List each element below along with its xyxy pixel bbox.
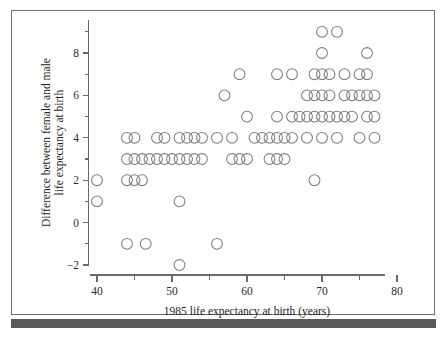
data-point [309, 175, 320, 186]
data-point [159, 132, 170, 143]
scatter-plot: −2024684050607080 1985 life expectancy a… [0, 0, 448, 339]
data-point [362, 69, 373, 80]
data-point [129, 132, 140, 143]
y-axis-title-line-2: life expectancy at birth [53, 89, 66, 195]
axis-titles-group: 1985 life expectancy at birth (years) Di… [40, 58, 330, 318]
axes-group [89, 20, 386, 275]
data-point [369, 90, 380, 101]
x-axis-title: 1985 life expectancy at birth (years) [164, 305, 331, 318]
data-point [339, 69, 350, 80]
data-point [174, 260, 185, 271]
data-point [92, 175, 103, 186]
data-points-group [92, 26, 380, 270]
data-point [122, 238, 133, 249]
data-point [369, 111, 380, 122]
y-tick-label: 6 [73, 89, 79, 101]
y-tick-label: 2 [73, 174, 79, 186]
data-point [362, 48, 373, 59]
data-point [302, 132, 313, 143]
y-axis-title-line-1: Difference between female and male [40, 58, 52, 227]
data-point [92, 196, 103, 207]
x-tick-label: 60 [241, 285, 253, 297]
data-point [317, 132, 328, 143]
x-tick-label: 50 [166, 285, 178, 297]
y-tick-label: 4 [73, 132, 79, 144]
data-point [332, 132, 343, 143]
chart-svg: −2024684050607080 1985 life expectancy a… [0, 0, 448, 339]
data-point [317, 48, 328, 59]
data-point [197, 132, 208, 143]
data-point [234, 69, 245, 80]
data-point [242, 111, 253, 122]
x-tick-label: 80 [391, 285, 403, 297]
data-point [332, 26, 343, 37]
data-point [354, 132, 365, 143]
x-tick-label: 40 [91, 285, 103, 297]
data-point [174, 196, 185, 207]
data-point [197, 154, 208, 165]
data-point [287, 69, 298, 80]
y-tick-label: −2 [67, 259, 79, 271]
data-point [287, 132, 298, 143]
data-point [369, 132, 380, 143]
data-point [242, 154, 253, 165]
data-point [137, 175, 148, 186]
data-point [212, 238, 223, 249]
data-point [279, 154, 290, 165]
data-point [227, 132, 238, 143]
data-point [324, 69, 335, 80]
data-point [219, 90, 230, 101]
tick-labels-group: −2024684050607080 [67, 47, 403, 297]
y-tick-label: 0 [73, 217, 79, 229]
data-point [212, 132, 223, 143]
data-point [347, 111, 358, 122]
data-point [317, 26, 328, 37]
x-tick-label: 70 [316, 285, 328, 297]
data-point [324, 90, 335, 101]
figure-container: −2024684050607080 1985 life expectancy a… [0, 0, 448, 339]
y-tick-label: 8 [73, 47, 79, 59]
data-point [272, 69, 283, 80]
data-point [272, 111, 283, 122]
data-point [140, 238, 151, 249]
